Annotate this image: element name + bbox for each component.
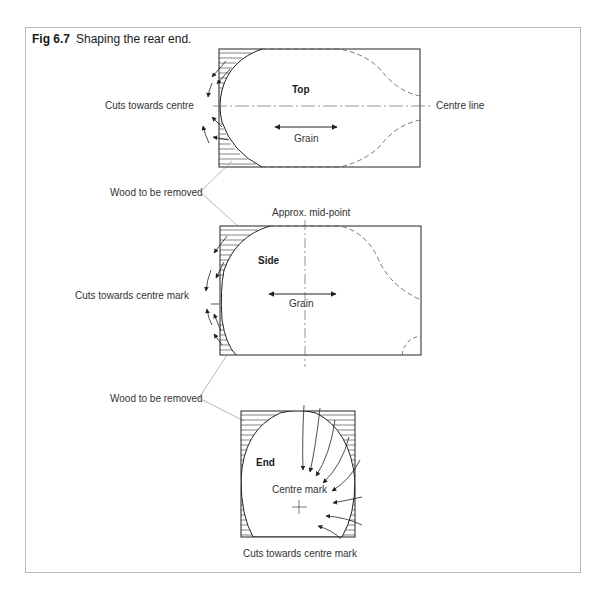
top-view-title: Top xyxy=(292,84,310,95)
side-view-title: Side xyxy=(258,255,280,266)
wood-removed-label-1: Wood to be removed xyxy=(110,187,203,198)
top-view: Centre line Top Grain Cuts towards centr… xyxy=(105,49,485,167)
side-grain-label: Grain xyxy=(289,298,313,309)
midpoint-label: Approx. mid-point xyxy=(272,207,351,218)
side-dashed-upper xyxy=(270,226,421,300)
top-cuts-label: Cuts towards centre xyxy=(105,100,194,111)
top-waste-hatching xyxy=(219,49,262,167)
top-dashed-upper xyxy=(262,49,420,96)
side-view: Approx. mid-point xyxy=(75,207,421,367)
wood-removed-callout-1: Wood to be removed xyxy=(110,161,238,226)
wood-removed-label-2: Wood to be removed xyxy=(110,393,203,404)
side-dashed-corner xyxy=(402,336,421,355)
top-blank-outline xyxy=(219,49,420,167)
end-view: End Centre mark Cuts towards centre mark xyxy=(241,405,362,559)
wood-removed-callout-2: Wood to be removed xyxy=(110,355,244,421)
end-view-title: End xyxy=(256,457,275,468)
side-blank-outline xyxy=(220,226,421,355)
shaping-diagram: Centre line Top Grain Cuts towards centr… xyxy=(0,0,608,600)
centre-mark-label: Centre mark xyxy=(272,484,328,495)
end-cuts-label: Cuts towards centre mark xyxy=(243,548,358,559)
side-shape-curve xyxy=(221,226,270,355)
centre-line-label: Centre line xyxy=(436,100,485,111)
side-waste-hatching xyxy=(220,230,258,350)
side-cuts-label: Cuts towards centre mark xyxy=(75,290,190,301)
top-grain-label: Grain xyxy=(294,133,318,144)
end-waste-hatching xyxy=(241,411,355,538)
